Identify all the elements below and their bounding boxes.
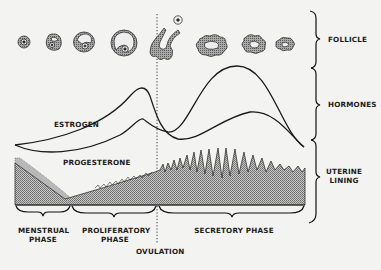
follicle-stage-3 bbox=[74, 32, 95, 52]
estrogen-label: ESTROGEN bbox=[54, 120, 99, 129]
follicle-stage-4 bbox=[111, 30, 137, 56]
follicle-stage-6-corpus-luteum bbox=[196, 35, 227, 57]
follicle-brace bbox=[310, 11, 320, 68]
follicle-stage-5-ruptured bbox=[150, 16, 182, 60]
menstrual-cycle-diagram: FOLLICLE HORMONES UTERINE LINING ESTROGE… bbox=[0, 0, 381, 270]
follicle-stage-2 bbox=[46, 34, 61, 50]
follicle-stage-8-corpus-luteum bbox=[276, 37, 295, 50]
follicle-label: FOLLICLE bbox=[328, 35, 367, 44]
lining-body bbox=[15, 148, 305, 205]
phase-braces bbox=[16, 206, 304, 217]
progesterone-label: PROGESTERONE bbox=[63, 158, 131, 167]
proliferatory-phase-label: PROLIFERATORY PHASE bbox=[82, 226, 148, 244]
hormones-brace bbox=[311, 68, 320, 140]
section-braces bbox=[309, 11, 320, 223]
estrogen-curve bbox=[15, 88, 304, 147]
secretory-brace bbox=[159, 206, 304, 217]
hormones-label: HORMONES bbox=[328, 100, 377, 109]
proliferatory-brace bbox=[72, 206, 156, 217]
ovulation-label: OVULATION bbox=[136, 247, 184, 256]
menstrual-brace bbox=[16, 206, 70, 216]
secretory-phase-label: SECRETORY PHASE bbox=[194, 226, 274, 235]
follicle-stage-1 bbox=[18, 36, 30, 48]
follicle-stage-7-corpus-luteum bbox=[242, 35, 266, 54]
uterine-lining-label: UTERINE LINING bbox=[326, 167, 362, 185]
progesterone-curve bbox=[15, 66, 304, 152]
hormone-curves bbox=[15, 66, 304, 152]
uterine-lining bbox=[15, 148, 305, 205]
uterine-brace bbox=[309, 140, 320, 223]
menstrual-phase-label: MENSTRUAL PHASE bbox=[18, 226, 68, 244]
follicle-row bbox=[18, 16, 295, 60]
